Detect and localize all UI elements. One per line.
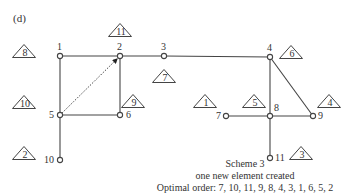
new-element-edge xyxy=(62,59,117,113)
marker-number: 7 xyxy=(155,73,175,83)
node-label: 2 xyxy=(117,42,122,52)
node-label: 3 xyxy=(161,42,166,52)
panel-label: (d) xyxy=(13,13,26,23)
marker-number: 1 xyxy=(196,98,216,108)
node-8 xyxy=(267,113,272,118)
marker-number: 4 xyxy=(320,98,340,108)
caption: Scheme 3 one new element created Optimal… xyxy=(120,158,352,194)
node-label: 1 xyxy=(57,42,62,52)
node-4 xyxy=(267,54,272,59)
marker-number: 11 xyxy=(111,27,131,37)
new-element-arrow xyxy=(62,59,117,113)
node-label: 8 xyxy=(274,103,279,113)
node-2 xyxy=(117,53,122,58)
marker-number: 5 xyxy=(245,98,265,108)
node-7 xyxy=(223,113,228,118)
node-label: 10 xyxy=(44,155,54,165)
marker-number: 2 xyxy=(15,150,35,160)
caption-new-element: one new element created xyxy=(120,170,352,182)
node-10 xyxy=(57,157,62,162)
node-label: 9 xyxy=(318,111,323,121)
node-label: 6 xyxy=(126,110,131,120)
node-5 xyxy=(57,112,62,117)
caption-scheme: Scheme 3 xyxy=(120,158,352,170)
node-6 xyxy=(117,112,122,117)
node-3 xyxy=(161,53,166,58)
node-1 xyxy=(57,53,62,58)
marker-number: 10 xyxy=(15,99,35,109)
marker-number: 6 xyxy=(282,49,302,59)
edge-3-4 xyxy=(164,56,270,57)
marker-number: 9 xyxy=(124,98,144,108)
node-label: 4 xyxy=(267,43,272,53)
node-label: 5 xyxy=(49,110,54,120)
node-9 xyxy=(310,113,315,118)
node-label: 7 xyxy=(216,111,221,121)
caption-optimal-order: Optimal order: 7, 10, 11, 9, 8, 4, 3, 1,… xyxy=(120,182,352,194)
marker-number: 8 xyxy=(15,48,35,58)
